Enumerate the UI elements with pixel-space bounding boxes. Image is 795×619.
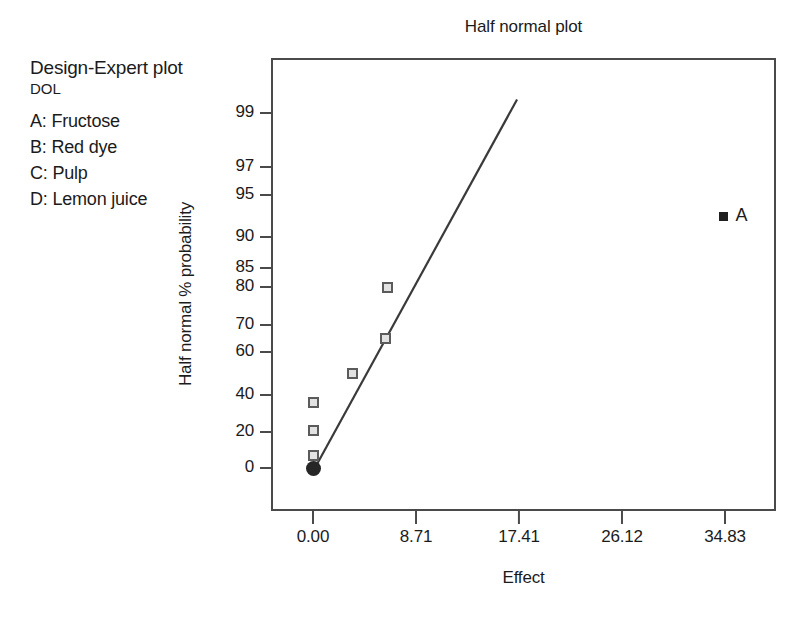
y-axis-tick-label: 99 [208, 102, 254, 122]
y-axis-title: Half normal % probability [176, 164, 196, 424]
data-point-filled-circle[interactable] [306, 461, 321, 476]
x-axis-tick-label: 0.00 [278, 527, 348, 547]
x-axis-title: Effect [271, 568, 776, 588]
data-point-open-square[interactable] [382, 282, 393, 293]
chart-screenshot: Design-Expert plot DOL A: Fructose B: Re… [0, 0, 795, 619]
data-point-open-square[interactable] [308, 397, 319, 408]
chart-title: Half normal plot [271, 17, 776, 37]
x-axis-tick-label: 17.41 [484, 527, 554, 547]
y-axis-tick-label: 20 [208, 421, 254, 441]
data-point-open-square[interactable] [308, 425, 319, 436]
x-axis-tick-label: 8.71 [381, 527, 451, 547]
plot-frame [271, 58, 776, 511]
data-point-open-square[interactable] [308, 450, 319, 461]
y-axis-tick-label: 40 [208, 384, 254, 404]
data-point-label: A [735, 205, 747, 226]
y-axis-tick-label: 85 [208, 257, 254, 277]
y-axis-tick-label: 60 [208, 341, 254, 361]
legend-software-title: Design-Expert plot [30, 56, 245, 79]
legend-response-name: DOL [30, 79, 245, 99]
x-axis-tick-label: 34.83 [690, 527, 760, 547]
y-axis-tick-label: 95 [208, 184, 254, 204]
data-point-open-square[interactable] [380, 333, 391, 344]
y-axis-tick-label: 70 [208, 314, 254, 334]
x-axis-tick-label: 26.12 [587, 527, 657, 547]
data-point-open-square[interactable] [347, 368, 358, 379]
y-axis-tick-label: 97 [208, 156, 254, 176]
y-axis-tick-label: 0 [208, 457, 254, 477]
data-point-filled-square[interactable] [719, 212, 728, 221]
y-axis-tick-label: 80 [208, 276, 254, 296]
y-axis-tick-label: 90 [208, 226, 254, 246]
